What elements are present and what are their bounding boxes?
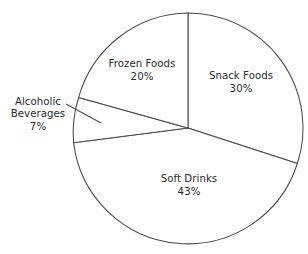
pie-label-snack-foods: Snack Foods 30% — [199, 70, 283, 95]
pie-label-alcoholic-beverages-value: 7% — [2, 121, 74, 133]
pie-label-alcoholic-beverages-name-line2: Beverages — [2, 108, 74, 120]
pie-label-snack-foods-value: 30% — [199, 83, 283, 96]
pie-label-soft-drinks: Soft Drinks 43% — [140, 173, 238, 198]
pie-label-frozen-foods: Frozen Foods 20% — [98, 58, 186, 83]
pie-label-frozen-foods-value: 20% — [98, 71, 186, 84]
pie-label-alcoholic-beverages: Alcoholic Beverages 7% — [2, 96, 74, 133]
pie-label-soft-drinks-value: 43% — [140, 186, 238, 199]
pie-label-frozen-foods-name: Frozen Foods — [98, 58, 186, 71]
pie-label-soft-drinks-name: Soft Drinks — [140, 173, 238, 186]
pie-label-snack-foods-name: Snack Foods — [199, 70, 283, 83]
pie-label-alcoholic-beverages-name-line1: Alcoholic — [2, 96, 74, 108]
pie-chart-figure: Snack Foods 30% Frozen Foods 20% Soft Dr… — [0, 0, 308, 254]
